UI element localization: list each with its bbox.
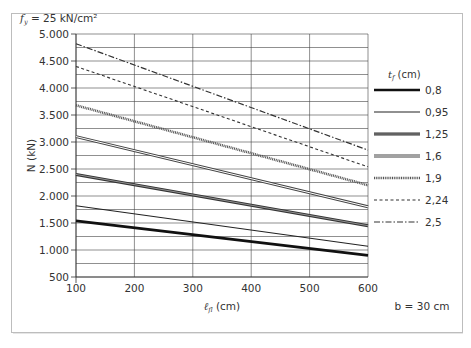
legend-label: 0,95 — [425, 106, 448, 118]
legend-title: tf (cm) — [388, 69, 421, 82]
legend-label: 1,6 — [425, 150, 442, 162]
x-axis-label: ℓfl (cm) — [204, 300, 240, 314]
series-line-stroke — [76, 174, 368, 225]
y-tick-label: 4.000 — [39, 82, 69, 94]
y-tick-label: 1.500 — [39, 217, 69, 229]
x-tick-label: 500 — [300, 282, 320, 294]
y-tick-label: 3.000 — [39, 136, 69, 148]
legend — [374, 90, 420, 222]
y-tick-label: 2.000 — [39, 190, 69, 202]
x-tick-label: 200 — [124, 282, 144, 294]
y-tick-label: 5.000 — [39, 28, 69, 40]
y-tick-label: 2.500 — [39, 163, 69, 175]
x-tick-label: 300 — [183, 282, 203, 294]
series-line-stroke — [76, 44, 368, 150]
x-tick-label: 400 — [241, 282, 261, 294]
series-line — [76, 174, 368, 225]
chart-title: fy = 25 kN/cm² — [19, 12, 97, 26]
x-tick-label: 100 — [66, 282, 86, 294]
series-line — [76, 44, 368, 150]
y-axis-label: N (kN) — [25, 139, 37, 172]
y-tick-label: 4.500 — [39, 55, 69, 67]
y-tick-label: 1.000 — [39, 244, 69, 256]
legend-label: 1,25 — [425, 128, 448, 140]
series-lines — [76, 44, 368, 256]
x-tick-label: 600 — [358, 282, 378, 294]
line-chart: 5001.0001.5002.0002.5003.0003.5004.0004.… — [0, 0, 471, 348]
legend-label: 1,9 — [425, 172, 442, 184]
legend-label: 2,24 — [425, 194, 449, 206]
y-tick-label: 3.500 — [39, 109, 69, 121]
legend-label: 0,8 — [425, 84, 442, 96]
legend-label: 2,5 — [425, 216, 442, 228]
y-tick-label: 500 — [49, 271, 69, 283]
annotation-b: b = 30 cm — [395, 300, 450, 312]
